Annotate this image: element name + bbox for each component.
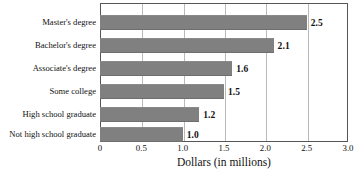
- bar: [100, 61, 232, 76]
- category-label: High school graduate: [22, 107, 96, 122]
- x-tick-label: 3.0: [343, 143, 354, 153]
- bar: [100, 15, 307, 30]
- category-label: Master's degree: [42, 15, 96, 30]
- x-tick-label: 0: [98, 143, 102, 153]
- bars-group: 2.5 2.1 1.6 1.5 1.2 1.0: [100, 3, 348, 142]
- bar: [100, 107, 199, 122]
- x-axis-title: Dollars (in millions): [100, 156, 348, 168]
- x-tick-label: 2.0: [260, 143, 271, 153]
- bar-chart: Master's degree Bachelor's degree Associ…: [0, 0, 357, 182]
- category-label: Associate's degree: [33, 61, 96, 76]
- bar: [100, 127, 183, 142]
- bar-value-label: 2.5: [311, 18, 323, 28]
- category-axis-labels: Master's degree Bachelor's degree Associ…: [0, 3, 96, 142]
- bar: [100, 38, 274, 53]
- bar-value-label: 1.2: [203, 110, 215, 120]
- bar-value-label: 1.6: [236, 64, 248, 74]
- category-label: Bachelor's degree: [35, 38, 96, 53]
- x-tick-label: 2.5: [301, 143, 312, 153]
- x-axis-ticks: 0 0.5 1.0 1.5 2.0 2.5 3.0: [100, 143, 348, 155]
- category-label: Some college: [49, 84, 96, 99]
- bar-value-label: 1.5: [228, 87, 240, 97]
- bar: [100, 84, 224, 99]
- x-tick-label: 1.0: [177, 143, 188, 153]
- x-tick-label: 1.5: [219, 143, 230, 153]
- bar-value-label: 2.1: [278, 41, 290, 51]
- category-label: Not high school graduate: [9, 127, 96, 142]
- bar-value-label: 1.0: [187, 130, 199, 140]
- x-tick-label: 0.5: [136, 143, 147, 153]
